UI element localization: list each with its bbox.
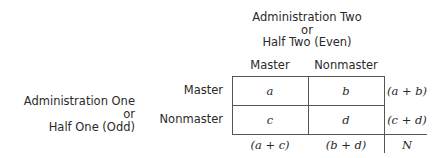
row-total-nonmaster: (c + d): [385, 106, 429, 134]
row-header-line1: Administration One or: [10, 95, 135, 121]
row-label-master: Master: [150, 83, 223, 97]
column-label-master: Master: [232, 58, 308, 72]
column-total-master: (a + c): [232, 135, 308, 155]
cell-c: c: [232, 106, 308, 134]
cell-a: a: [232, 77, 308, 105]
column-total-nonmaster: (b + d): [308, 135, 384, 155]
row-header-line2: Half One (Odd): [10, 121, 135, 134]
column-label-nonmaster: Nonmaster: [308, 58, 384, 72]
column-header-line3: Half Two (Even): [226, 36, 388, 49]
cell-d: d: [308, 106, 384, 134]
grand-total: N: [385, 135, 429, 155]
row-header: Administration One or Half One (Odd): [10, 95, 135, 134]
row-total-master: (a + b): [385, 77, 429, 105]
cell-b: b: [308, 77, 384, 105]
row-label-nonmaster: Nonmaster: [150, 112, 223, 126]
column-header-line1: Administration Two: [226, 11, 388, 24]
column-header: Administration Two or Half Two (Even): [226, 11, 388, 49]
